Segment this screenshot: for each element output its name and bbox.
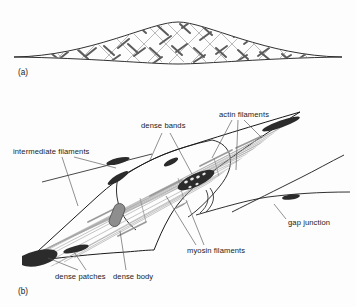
label-actin-filaments: actin filaments	[219, 110, 269, 119]
dense-band-mid	[163, 156, 180, 168]
smooth-muscle-figure: intermediate filaments dense bands actin…	[0, 0, 356, 307]
dense-patch-tip	[22, 249, 57, 266]
label-intermediate-filaments: intermediate filaments	[13, 147, 89, 156]
label-dense-bands: dense bands	[141, 121, 186, 130]
panel-label-b: (b)	[18, 287, 28, 296]
panel-a-cell-outline	[14, 22, 342, 64]
panel-a-filament-lattice	[18, 6, 350, 82]
label-dense-body: dense body	[113, 272, 153, 281]
panel-label-a: (a)	[18, 68, 28, 77]
dense-band-left	[106, 169, 130, 187]
label-myosin-filaments: myosin filaments	[187, 246, 245, 255]
dense-body-marker	[107, 202, 126, 228]
label-dense-patches: dense patches	[55, 272, 106, 281]
filament-bundles	[28, 118, 300, 268]
label-gap-junction: gap junction	[288, 218, 330, 227]
